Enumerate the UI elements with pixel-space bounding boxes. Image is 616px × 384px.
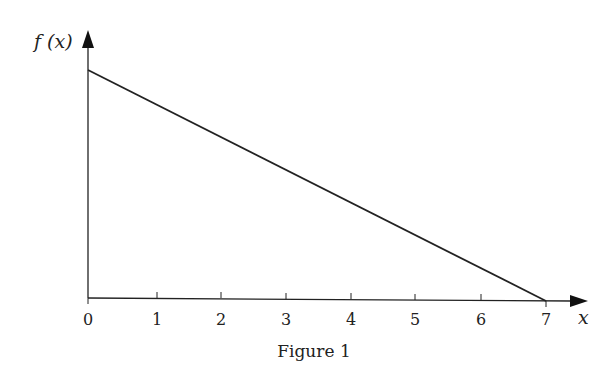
x-tick-label: 1 <box>152 310 162 329</box>
figure-caption: Figure 1 <box>277 341 350 361</box>
x-tick-label: 0 <box>83 310 93 329</box>
x-tick-label: 3 <box>281 310 291 329</box>
y-axis-arrow-icon <box>82 30 94 48</box>
x-tick-label: 2 <box>216 310 226 329</box>
x-axis-label: x <box>578 306 589 328</box>
x-tick-label: 4 <box>346 310 356 329</box>
figure-1-chart: 0 1 2 3 4 5 6 7 x f (x) Figure 1 <box>0 0 616 384</box>
x-tick-label: 6 <box>476 310 486 329</box>
y-axis-label: f (x) <box>32 30 73 52</box>
x-tick-label: 7 <box>541 310 551 329</box>
x-axis <box>88 298 572 301</box>
data-line <box>88 70 546 301</box>
x-tick-label: 5 <box>410 310 420 329</box>
